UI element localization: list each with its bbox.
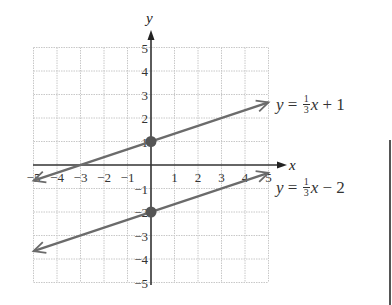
axes	[33, 30, 287, 285]
equation-label-line1: y = 1 3 x + 1	[276, 94, 345, 115]
eq2-lhs: y	[276, 178, 284, 198]
x-tick-label: −3	[74, 170, 88, 185]
page-edge-divider	[389, 140, 391, 305]
eq1-denominator: 3	[304, 105, 309, 115]
y-tick-label: 3	[142, 88, 149, 103]
y-tick-label: 4	[142, 64, 149, 79]
eq2-equals: =	[284, 178, 302, 198]
eq1-equals: =	[284, 95, 302, 115]
eq1-var: x	[311, 95, 319, 115]
eq1-fraction: 1 3	[303, 94, 310, 115]
y-tick-label: −1	[134, 182, 148, 197]
y-tick-label: 2	[142, 111, 149, 126]
eq2-fraction: 1 3	[303, 177, 310, 198]
x-tick-label: 1	[171, 170, 178, 185]
y-tick-label: −5	[134, 276, 148, 291]
x-tick-label: −2	[97, 170, 111, 185]
eq2-var: x	[311, 178, 319, 198]
equation-label-line2: y = 1 3 x − 2	[276, 177, 345, 198]
eq2-denominator: 3	[304, 188, 309, 198]
y-tick-label: −3	[134, 229, 148, 244]
y-axis-label: y	[144, 10, 153, 26]
y-tick-label: −4	[134, 252, 148, 267]
y-intercept-point	[146, 207, 157, 218]
eq1-rest: + 1	[318, 95, 345, 115]
x-tick-label: 4	[242, 170, 249, 185]
x-tick-label: 3	[218, 170, 225, 185]
y-intercept-point	[146, 136, 157, 147]
eq2-rest: − 2	[318, 178, 345, 198]
x-tick-label: −1	[121, 170, 135, 185]
y-tick-label: 5	[142, 41, 149, 56]
x-tick-label: 2	[195, 170, 202, 185]
x-axis-label: x	[288, 157, 296, 173]
eq1-lhs: y	[276, 95, 284, 115]
y-axis-arrow-icon	[148, 30, 155, 40]
coordinate-plane: −5−4−3−2−112345−5−4−3−2−112345 x y	[0, 0, 392, 305]
x-axis-arrow-icon	[277, 162, 287, 169]
x-tick-label: −5	[27, 170, 41, 185]
